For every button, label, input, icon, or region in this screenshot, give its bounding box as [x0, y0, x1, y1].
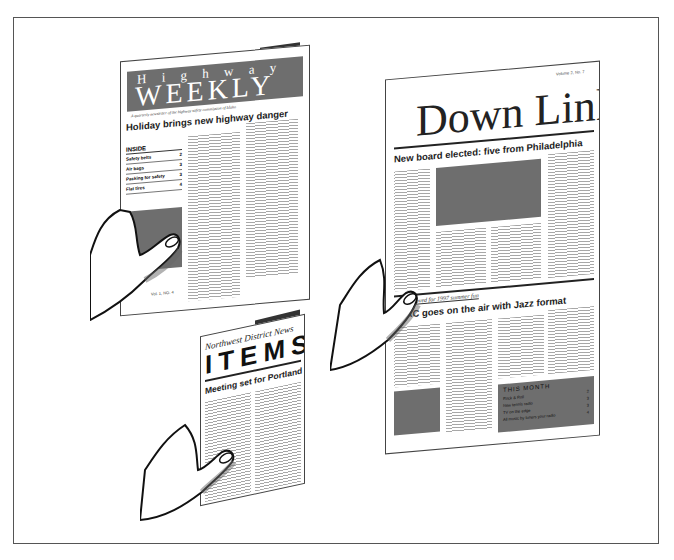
body-column-4 — [548, 150, 594, 278]
masthead-block: H i g h w a y WEEKLY — [127, 56, 303, 111]
this-month-box: THIS MONTH Rock & Roll2 New tennis radio… — [498, 376, 594, 432]
volume-label: Volume 2, No. 7 — [556, 69, 584, 76]
body-column-2 — [255, 382, 301, 492]
body-column-3 — [491, 223, 541, 283]
masthead: Down Link — [416, 82, 600, 144]
inside-box: INSIDE Safety belts2 Air bags3 Packing f… — [126, 142, 182, 195]
body-column-2 — [436, 228, 486, 288]
body-column-7 — [498, 314, 544, 378]
body-column-2 — [246, 119, 298, 279]
body-column-8 — [548, 306, 594, 374]
photo-main — [436, 159, 541, 226]
hand-icon — [140, 420, 260, 530]
hand-icon — [330, 255, 440, 395]
hand-icon — [90, 200, 200, 330]
body-column-6 — [446, 319, 492, 433]
